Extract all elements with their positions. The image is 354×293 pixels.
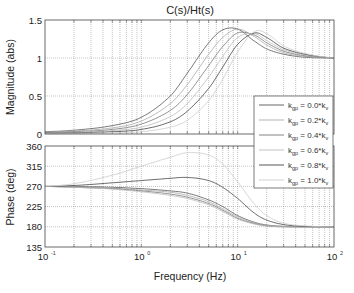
chart-title: C(s)/Ht(s) — [166, 4, 214, 16]
y-tick-label: 0 — [37, 129, 42, 140]
y-tick-label: 270 — [26, 181, 42, 192]
y-tick-label: 180 — [26, 221, 42, 232]
x-tick-label: 10 — [134, 251, 145, 262]
y-tick-label: 1.5 — [29, 15, 42, 26]
y-tick-label: 225 — [26, 201, 42, 212]
phase-ylabel: Phase (deg) — [4, 168, 16, 225]
frequency-xlabel: Frequency (Hz) — [154, 270, 226, 282]
x-tick-exponent: 1 — [244, 250, 247, 256]
y-tick-label: 1 — [37, 53, 42, 64]
x-tick-exponent: -1 — [51, 250, 56, 256]
magnitude-ylabel: Magnitude (abs) — [4, 39, 16, 115]
x-tick-exponent: 2 — [340, 250, 343, 256]
y-tick-label: 0.5 — [29, 91, 42, 102]
y-tick-label: 360 — [26, 141, 42, 152]
x-tick-label: 10 — [327, 251, 338, 262]
x-tick-exponent: 0 — [147, 250, 150, 256]
bode-figure: 00.511.5 13518022527031536010-1100101102… — [0, 0, 354, 293]
legend: kgp = 0.0*kvkgp = 0.2*kvkgp = 0.4*kvkgp … — [254, 96, 333, 188]
x-tick-label: 10 — [38, 251, 49, 262]
x-tick-label: 10 — [230, 251, 241, 262]
y-tick-label: 315 — [26, 161, 42, 172]
